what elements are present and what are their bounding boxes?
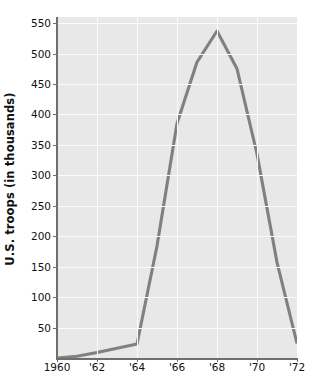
gridline-vertical	[177, 17, 178, 358]
gridline-vertical	[217, 17, 218, 358]
y-axis-tick-label: 300	[31, 169, 51, 181]
y-axis-tick-mark	[53, 328, 56, 329]
y-axis-tick-mark	[53, 297, 56, 298]
x-axis-tick-mark	[57, 359, 58, 362]
y-axis-tick-mark	[53, 54, 56, 55]
y-axis-tick-label: 50	[38, 322, 51, 334]
y-axis-tick-label: 100	[31, 291, 51, 303]
y-axis-tick-label: 400	[31, 108, 51, 120]
y-axis-tick-mark	[53, 145, 56, 146]
y-axis-tick-labels: 50100150200250300350400450500550	[20, 0, 54, 387]
y-axis-tick-mark	[53, 236, 56, 237]
gridline-vertical	[97, 17, 98, 358]
y-axis-title-text: U.S. troops (in thousands)	[3, 92, 17, 265]
y-axis-tick-mark	[53, 267, 56, 268]
y-axis-tick-label: 200	[31, 230, 51, 242]
gridline-vertical	[257, 17, 258, 358]
y-axis-title: U.S. troops (in thousands)	[0, 0, 20, 358]
x-axis-tick-label: '72	[289, 361, 305, 373]
y-axis-tick-label: 550	[31, 17, 51, 29]
x-axis-tick-mark	[257, 359, 258, 362]
x-axis-tick-mark	[137, 359, 138, 362]
x-axis-tick-mark	[297, 359, 298, 362]
x-axis-tick-label: 1960	[44, 361, 71, 373]
y-axis-tick-label: 450	[31, 78, 51, 90]
x-axis-tick-label: '64	[129, 361, 145, 373]
x-axis-tick-mark	[97, 359, 98, 362]
x-axis-tick-label: '70	[249, 361, 265, 373]
y-axis-spine	[56, 17, 58, 359]
y-axis-tick-mark	[53, 206, 56, 207]
x-axis-tick-label: '66	[169, 361, 185, 373]
plot-area	[57, 17, 297, 358]
y-axis-tick-mark	[53, 23, 56, 24]
x-axis-tick-mark	[177, 359, 178, 362]
y-axis-tick-label: 250	[31, 200, 51, 212]
x-axis-tick-label: '62	[89, 361, 105, 373]
y-axis-tick-mark	[53, 84, 56, 85]
y-axis-tick-label: 150	[31, 261, 51, 273]
y-axis-tick-mark	[53, 114, 56, 115]
y-axis-tick-label: 500	[31, 48, 51, 60]
x-axis-tick-mark	[217, 359, 218, 362]
y-axis-tick-label: 350	[31, 139, 51, 151]
troop-levels-line-chart: U.S. troops (in thousands) 5010015020025…	[0, 0, 317, 387]
y-axis-tick-mark	[53, 175, 56, 176]
x-axis-tick-labels: 1960'62'64'66'68'70'72	[0, 361, 317, 385]
gridline-vertical	[137, 17, 138, 358]
x-axis-tick-label: '68	[209, 361, 225, 373]
